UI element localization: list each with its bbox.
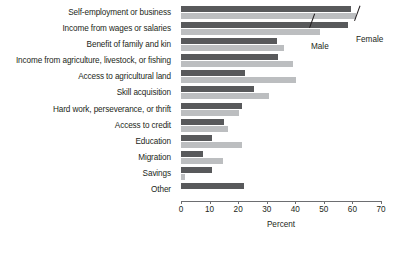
category-label: Savings <box>0 166 176 182</box>
bar-male <box>181 70 245 76</box>
bar-male <box>181 22 348 28</box>
plot-area <box>181 5 381 201</box>
x-axis-line <box>181 201 381 202</box>
bar-female <box>181 45 284 51</box>
bar-group <box>181 118 381 134</box>
bar-group <box>181 69 381 85</box>
x-tick-label: 50 <box>309 205 339 214</box>
bar-male <box>181 38 277 44</box>
bar-group <box>181 21 381 37</box>
bar-group <box>181 102 381 118</box>
category-label: Education <box>0 134 176 150</box>
bar-group <box>181 85 381 101</box>
x-tick-label: 40 <box>280 205 310 214</box>
bar-male <box>181 86 254 92</box>
category-axis-labels: Self-employment or business Income from … <box>0 5 176 201</box>
bar-group <box>181 182 381 198</box>
category-label: Access to credit <box>0 118 176 134</box>
bar-male <box>181 183 244 189</box>
bar-group <box>181 134 381 150</box>
bar-group <box>181 53 381 69</box>
x-tick <box>324 201 325 204</box>
legend-item-female: Female <box>356 35 383 44</box>
bar-female <box>181 158 223 164</box>
x-tick <box>181 201 182 204</box>
x-axis-title: Percent <box>181 220 381 229</box>
x-tick <box>381 201 382 204</box>
bar-female <box>181 110 239 116</box>
bar-female <box>181 29 320 35</box>
bar-female <box>181 174 185 180</box>
x-tick-label: 70 <box>366 205 396 214</box>
bar-male <box>181 54 278 60</box>
bar-group <box>181 37 381 53</box>
bar-group <box>181 166 381 182</box>
x-tick <box>267 201 268 204</box>
category-label: Migration <box>0 150 176 166</box>
x-tick-label: 20 <box>223 205 253 214</box>
x-tick-label: 30 <box>252 205 282 214</box>
bar-male <box>181 6 351 12</box>
bar-male <box>181 167 212 173</box>
x-tick <box>238 201 239 204</box>
x-tick-label: 10 <box>195 205 225 214</box>
bar-female <box>181 13 356 19</box>
legend-item-male: Male <box>311 42 329 51</box>
category-label: Access to agricultural land <box>0 69 176 85</box>
x-tick-label: 60 <box>337 205 367 214</box>
bar-female <box>181 142 242 148</box>
category-label: Skill acquisition <box>0 85 176 101</box>
bar-male <box>181 151 203 157</box>
x-tick <box>210 201 211 204</box>
bar-chart: Self-employment or business Income from … <box>0 0 397 254</box>
bar-female <box>181 126 228 132</box>
category-label: Income from agriculture, livestock, or f… <box>0 53 176 69</box>
bar-female <box>181 61 293 67</box>
category-label: Income from wages or salaries <box>0 21 176 37</box>
bar-male <box>181 103 242 109</box>
x-tick <box>295 201 296 204</box>
category-label: Self-employment or business <box>0 5 176 21</box>
category-label: Other <box>0 182 176 198</box>
bar-female <box>181 93 269 99</box>
category-label: Hard work, perseverance, or thrift <box>0 102 176 118</box>
category-label: Benefit of family and kin <box>0 37 176 53</box>
x-tick-label: 0 <box>166 205 196 214</box>
bar-female <box>181 77 296 83</box>
bar-group <box>181 5 381 21</box>
bar-male <box>181 119 224 125</box>
x-tick <box>352 201 353 204</box>
bar-male <box>181 135 212 141</box>
bar-group <box>181 150 381 166</box>
